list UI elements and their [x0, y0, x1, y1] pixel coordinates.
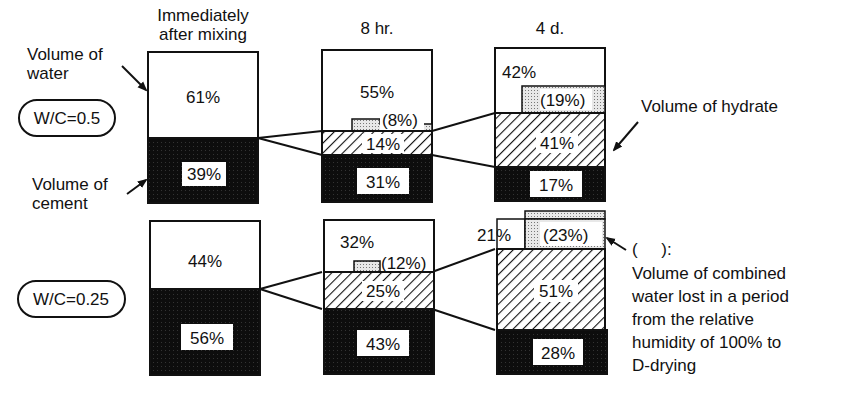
annotation-volume-of-hydrate: Volume of hydrate: [641, 97, 778, 116]
bar-wc05-8hr: (8%) 55% 14% 31%: [322, 50, 432, 202]
annotation-volume-of-cement: Volume of: [32, 175, 108, 194]
water-value: 42%: [502, 63, 536, 82]
water-value: 32%: [340, 233, 374, 252]
cement-value: 28%: [541, 344, 575, 363]
annotation-volume-of-cement-2: cement: [32, 194, 88, 213]
column-header-after-mixing: after mixing: [159, 25, 247, 44]
arrow-icon: [614, 122, 638, 150]
cement-value: 43%: [366, 335, 400, 354]
row-label-text: W/C=0.25: [33, 290, 109, 309]
row-label-wc025: W/C=0.25: [18, 281, 125, 317]
water-value: 44%: [188, 252, 222, 271]
arrow-icon: [607, 238, 626, 250]
bar-wc025-8hr: 32% (12%) 25% 43%: [324, 220, 434, 374]
bar-wc05-immediately: 61% 39%: [148, 52, 258, 203]
column-header-immediately: Immediately: [157, 6, 249, 25]
hydrate-value: 14%: [366, 135, 400, 154]
hydrate-value: 41%: [540, 134, 574, 153]
water-value: 55%: [360, 83, 394, 102]
annotation-volume-of-water-2: water: [26, 64, 69, 83]
cement-value: 39%: [187, 165, 221, 184]
lost-value: (23%): [543, 226, 588, 245]
lost-value: (8%): [382, 111, 418, 130]
arrow-icon: [127, 180, 146, 194]
hydrate-value: 51%: [539, 282, 573, 301]
annotation-volume-of-water: Volume of: [27, 45, 103, 64]
bar-wc05-4d: 42% (19%) 41% 17%: [495, 48, 605, 201]
lost-value: (12%): [381, 254, 426, 273]
lost-value: (19%): [540, 91, 585, 110]
annotation-combined-water-2: water lost in a period: [631, 287, 789, 306]
row-label-wc05: W/C=0.5: [19, 100, 115, 136]
cement-value: 17%: [539, 176, 573, 195]
column-header-8hr: 8 hr.: [360, 19, 393, 38]
column-header-4d: 4 d.: [536, 19, 564, 38]
cement-value: 31%: [366, 173, 400, 192]
arrow-icon: [122, 66, 146, 90]
hydrate-value: 25%: [366, 282, 400, 301]
hydration-volume-diagram: Immediately after mixing 8 hr. 4 d. 61% …: [0, 0, 841, 397]
row-label-text: W/C=0.5: [34, 109, 101, 128]
annotation-combined-water-3: from the relative: [632, 310, 754, 329]
annotation-combined-water-1: Volume of combined: [632, 264, 786, 283]
annotation-combined-water-4: humidity of 100% to: [632, 333, 781, 352]
water-value: 21%: [477, 226, 511, 245]
bar-wc025-immediately: 44% 56%: [150, 221, 260, 375]
annotation-paren-legend: ( ):: [632, 240, 672, 259]
bar-wc025-4d: 21% (23%) 51% 28%: [477, 211, 607, 374]
cement-value: 56%: [190, 329, 224, 348]
annotation-combined-water-5: D-drying: [632, 356, 696, 375]
water-value: 61%: [186, 88, 220, 107]
